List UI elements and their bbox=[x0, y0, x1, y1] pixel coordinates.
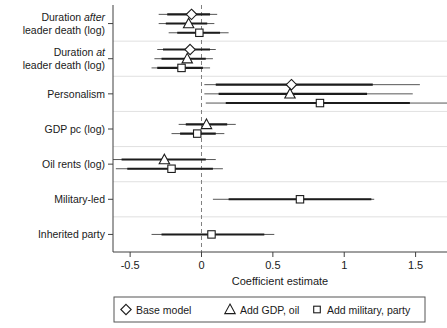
coefficient-row bbox=[157, 44, 216, 54]
legend-label: Add GDP, oil bbox=[240, 304, 299, 316]
y-axis-label: Oil rents (log) bbox=[42, 158, 105, 170]
x-axis-tick-label: 0.5 bbox=[265, 259, 280, 271]
coefficient-row bbox=[179, 119, 236, 129]
x-axis-tick-label: 1 bbox=[341, 259, 347, 271]
series-intervals-and-markers bbox=[113, 9, 447, 238]
coefficient-plot-svg: Duration afterleader death (log)Duration… bbox=[0, 0, 447, 328]
marker-square bbox=[208, 231, 215, 238]
marker-square bbox=[168, 165, 175, 172]
legend: Base modelAdd GDP, oilAdd military, part… bbox=[114, 297, 425, 322]
marker-square bbox=[196, 29, 203, 36]
marker-square bbox=[316, 99, 323, 106]
legend-label: Add military, party bbox=[327, 304, 411, 316]
x-axis-tick-label: 0 bbox=[198, 259, 204, 271]
y-axis-label: leader death (log) bbox=[23, 59, 105, 71]
coefficient-row bbox=[206, 99, 447, 106]
coefficient-row bbox=[204, 88, 412, 98]
marker-square bbox=[194, 130, 201, 137]
x-axis-ticks: -0.500.511.5 bbox=[121, 252, 424, 271]
legend-marker-square bbox=[314, 306, 321, 313]
y-axis-label: Duration at bbox=[54, 46, 106, 58]
y-axis-label: Personalism bbox=[47, 88, 105, 100]
coefficient-row bbox=[113, 154, 216, 164]
coefficient-row bbox=[213, 196, 374, 203]
y-axis-label: leader death (log) bbox=[23, 24, 105, 36]
marker-diamond bbox=[186, 9, 196, 19]
legend-label: Base model bbox=[136, 304, 191, 316]
coefficient-row bbox=[159, 18, 215, 28]
coefficient-row bbox=[169, 29, 229, 36]
coefficient-row bbox=[172, 130, 225, 137]
coefficient-row bbox=[152, 231, 275, 238]
coefficient-plot-figure: Duration afterleader death (log)Duration… bbox=[0, 0, 447, 328]
x-axis bbox=[113, 5, 447, 252]
legend-item[interactable]: Add military, party bbox=[314, 304, 411, 316]
marker-diamond bbox=[286, 79, 296, 89]
x-axis-tick-label: 1.5 bbox=[408, 259, 423, 271]
x-axis-tick-label: -0.5 bbox=[121, 259, 140, 271]
coefficient-row bbox=[204, 79, 420, 89]
y-axis-category-labels: Duration afterleader death (log)Duration… bbox=[23, 11, 113, 241]
x-axis-title: Coefficient estimate bbox=[232, 275, 328, 287]
coefficient-row bbox=[116, 165, 223, 172]
coefficient-row bbox=[154, 53, 213, 63]
coefficient-row bbox=[159, 9, 218, 19]
x-axis-title: Coefficient estimate bbox=[232, 275, 328, 287]
marker-diamond bbox=[185, 44, 195, 54]
y-axis-label: GDP pc (log) bbox=[45, 123, 106, 135]
y-axis-label: Military-led bbox=[54, 193, 105, 205]
y-axis-label: Inherited party bbox=[38, 228, 106, 240]
y-axis-label: Duration after bbox=[41, 11, 105, 23]
marker-square bbox=[178, 64, 185, 71]
marker-square bbox=[296, 196, 303, 203]
